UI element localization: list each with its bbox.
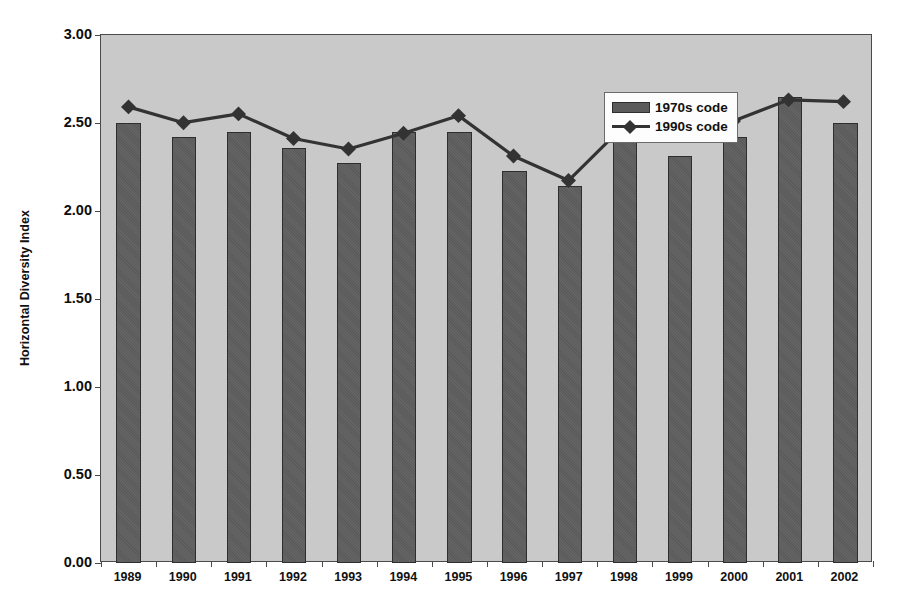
- x-axis-tick-label: 1999: [665, 570, 693, 584]
- y-axis-tick-mark: [95, 387, 101, 388]
- x-axis-tick-mark: [597, 561, 598, 567]
- line-markers: [121, 92, 851, 188]
- x-axis-tick-label: 1995: [445, 570, 473, 584]
- y-axis-tick-mark: [95, 35, 101, 36]
- y-axis-tick-label: 3.00: [40, 26, 92, 42]
- legend-label-1970s-code: 1970s code: [655, 100, 728, 115]
- y-axis-tick-label: 2.50: [40, 114, 92, 130]
- legend: 1970s code 1990s code: [604, 92, 738, 143]
- diamond-marker-icon: [781, 92, 796, 107]
- diamond-marker-icon: [176, 115, 191, 130]
- chart-figure: Horizontal Diversity Index 0.000.501.001…: [0, 0, 901, 613]
- y-axis-tick-labels: 0.000.501.001.502.002.503.00: [32, 0, 92, 613]
- line-series-1990s-code: [101, 35, 871, 561]
- plot-area: 1970s code 1990s code: [100, 34, 872, 562]
- bar-swatch-icon: [612, 102, 650, 113]
- x-axis-tick-label: 2001: [775, 570, 803, 584]
- x-axis-tick-mark: [873, 561, 874, 567]
- diamond-marker-icon: [121, 99, 136, 114]
- diamond-marker-icon: [396, 126, 411, 141]
- x-axis-tick-mark: [542, 561, 543, 567]
- legend-entry-1990s-code: 1990s code: [612, 117, 728, 136]
- plot-inner: [101, 35, 871, 561]
- y-axis-tick-label: 2.00: [40, 202, 92, 218]
- y-axis-tick-mark: [95, 211, 101, 212]
- x-axis-tick-label: 1993: [334, 570, 362, 584]
- legend-label-1990s-code: 1990s code: [655, 119, 728, 134]
- x-axis-tick-label: 1998: [610, 570, 638, 584]
- y-axis-tick-label: 0.50: [40, 466, 92, 482]
- x-axis-tick-label: 2002: [831, 570, 859, 584]
- diamond-marker-icon: [286, 131, 301, 146]
- y-axis-tick-mark: [95, 299, 101, 300]
- x-axis-tick-label: 1992: [279, 570, 307, 584]
- x-axis-tick-label: 1994: [389, 570, 417, 584]
- x-axis-tick-label: 1996: [500, 570, 528, 584]
- x-axis-tick-labels: 1989199019911992199319941995199619971998…: [100, 570, 872, 600]
- x-axis-tick-label: 2000: [720, 570, 748, 584]
- x-axis-tick-mark: [156, 561, 157, 567]
- x-axis-tick-label: 1997: [555, 570, 583, 584]
- diamond-marker-icon: [341, 141, 356, 156]
- y-axis-tick-label: 1.50: [40, 290, 92, 306]
- x-axis-tick-label: 1991: [224, 570, 252, 584]
- x-axis-tick-label: 1990: [169, 570, 197, 584]
- x-axis-tick-mark: [652, 561, 653, 567]
- diamond-marker-icon: [231, 106, 246, 121]
- x-axis-tick-mark: [487, 561, 488, 567]
- legend-entry-1970s-code: 1970s code: [612, 98, 728, 117]
- x-axis-tick-mark: [211, 561, 212, 567]
- y-axis-title-label: Horizontal Diversity Index: [18, 209, 32, 365]
- y-axis-tick-mark: [95, 123, 101, 124]
- x-axis-tick-mark: [763, 561, 764, 567]
- x-axis-tick-mark: [708, 561, 709, 567]
- diamond-marker-icon: [836, 94, 851, 109]
- y-axis-tick-mark: [95, 475, 101, 476]
- diamond-marker-icon: [623, 119, 637, 133]
- y-axis-tick-label: 0.00: [40, 554, 92, 570]
- line-marker-swatch-icon: [612, 121, 650, 132]
- x-axis-tick-mark: [322, 561, 323, 567]
- x-axis-tick-mark: [101, 561, 102, 567]
- y-axis-tick-label: 1.00: [40, 378, 92, 394]
- x-axis-tick-label: 1989: [114, 570, 142, 584]
- x-axis-tick-mark: [818, 561, 819, 567]
- x-axis-tick-mark: [266, 561, 267, 567]
- x-axis-tick-mark: [432, 561, 433, 567]
- x-axis-tick-mark: [377, 561, 378, 567]
